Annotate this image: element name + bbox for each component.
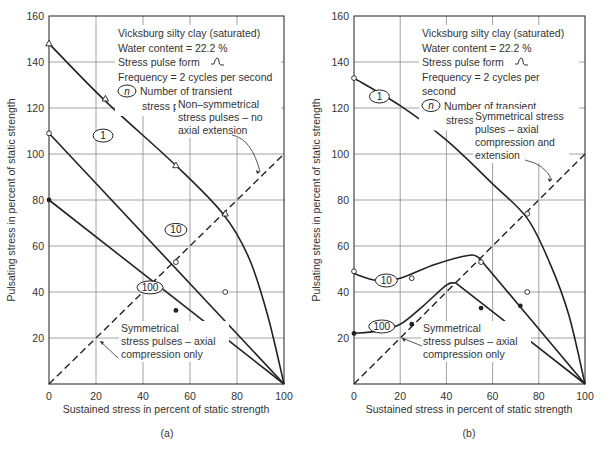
legend-note-line: Water content = 22.2 % <box>118 42 228 54</box>
x-tick-label: 100 <box>576 390 594 402</box>
chart-panel-a: 110100 02040608010020406080100120140160 … <box>5 10 293 439</box>
y-tick-label: 160 <box>331 10 349 22</box>
x-tick-label: 0 <box>351 390 357 402</box>
data-point-series-10 <box>223 290 228 295</box>
x-axis-label-b: Sustained stress in percent of static st… <box>366 403 573 415</box>
data-point-series-100 <box>352 331 357 336</box>
data-point-series-100 <box>174 308 179 313</box>
y-axis-label-a: Pulsating stress in percent of static st… <box>5 98 17 301</box>
series-label-100: 100 <box>142 282 159 293</box>
y-tick-label: 20 <box>337 332 349 344</box>
legend-note-line: second <box>422 85 456 97</box>
x-tick-label: 20 <box>394 390 406 402</box>
data-point-series-10 <box>409 276 414 281</box>
arrowhead-icon <box>402 338 406 342</box>
data-point-series-100 <box>47 198 52 203</box>
data-point-series-10 <box>47 131 52 136</box>
x-tick-label: 60 <box>184 390 196 402</box>
legend-note-line: Number of transient <box>140 85 232 97</box>
y-tick-label: 120 <box>331 102 349 114</box>
symmetric-annotation: stress pulses – axial <box>423 335 518 347</box>
legend-note-line: Frequency = 2 cycles per second <box>118 71 273 83</box>
figure: 110100 02040608010020406080100120140160 … <box>0 0 610 451</box>
data-point-series-1 <box>352 76 357 81</box>
y-tick-label: 120 <box>26 102 44 114</box>
series-label-1: 1 <box>377 91 383 102</box>
y-tick-label: 60 <box>337 240 349 252</box>
data-point-series-100 <box>518 303 523 308</box>
y-tick-label: 80 <box>32 194 44 206</box>
data-point-series-10 <box>479 260 484 265</box>
caption-a: (a) <box>161 427 174 439</box>
legend-note-line: Stress pulse form <box>422 56 504 68</box>
reference-line-annotation: Symmetrical stress <box>475 110 564 122</box>
x-tick-label: 80 <box>533 390 545 402</box>
reference-line-annotation: Non–symmetrical <box>178 98 259 110</box>
reference-line-annotation: pulses – axial <box>475 123 539 135</box>
annotation-leader-arrow <box>232 135 260 172</box>
legend-note-line: Vicksburg silty clay (saturated) <box>118 27 260 39</box>
data-point-series-10 <box>174 260 179 265</box>
series-label-100: 100 <box>373 321 390 332</box>
symmetric-annotation: Symmetrical <box>121 322 179 334</box>
y-axis-label-b: Pulsating stress in percent of static st… <box>310 98 322 301</box>
legend-symbol: n <box>124 86 130 97</box>
reference-line-annotation: extension <box>475 149 520 161</box>
reference-line-annotation: compression and <box>475 136 555 148</box>
reference-line-annotation: axial extension <box>178 124 248 136</box>
caption-b: (b) <box>463 427 476 439</box>
series-label-10: 10 <box>170 224 182 235</box>
y-tick-label: 80 <box>337 194 349 206</box>
y-tick-label: 140 <box>26 56 44 68</box>
legend-note-line: Stress pulse form <box>118 56 200 68</box>
symmetric-annotation: compression only <box>121 348 203 360</box>
symmetric-annotation: stress pulses – axial <box>121 335 216 347</box>
legend-note-line: Vicksburg silty clay (saturated) <box>422 27 564 39</box>
legend-note-line: Water content = 22.2 % <box>422 42 532 54</box>
series-label-10: 10 <box>381 275 393 286</box>
legend-note-line: Frequency = 2 cycles per <box>422 71 540 83</box>
x-tick-label: 100 <box>275 390 293 402</box>
x-tick-label: 60 <box>487 390 499 402</box>
reference-line-annotation: stress pulses – no <box>178 111 263 123</box>
x-tick-label: 40 <box>441 390 453 402</box>
x-tick-label: 0 <box>46 390 52 402</box>
data-point-series-100 <box>409 322 414 327</box>
chart-panel-b: 110100 02040608010020406080100120140160 … <box>310 10 594 439</box>
y-tick-label: 40 <box>32 286 44 298</box>
data-point-series-10 <box>352 269 357 274</box>
y-tick-label: 140 <box>331 56 349 68</box>
x-tick-label: 40 <box>137 390 149 402</box>
y-tick-label: 100 <box>26 148 44 160</box>
y-tick-label: 100 <box>331 148 349 160</box>
x-tick-label: 20 <box>90 390 102 402</box>
data-point-series-1 <box>46 40 52 46</box>
series-label-1: 1 <box>100 130 106 141</box>
y-tick-label: 60 <box>32 240 44 252</box>
x-tick-label: 80 <box>231 390 243 402</box>
data-point-series-1 <box>525 211 530 216</box>
symmetric-annotation: compression only <box>423 348 505 360</box>
legend-symbol: n <box>428 100 434 111</box>
y-tick-label: 40 <box>337 286 349 298</box>
symmetric-annotation: Symmetrical <box>423 322 481 334</box>
x-axis-label-a: Sustained stress in percent of static st… <box>63 403 270 415</box>
data-point-series-10 <box>525 290 530 295</box>
y-tick-label: 20 <box>32 332 44 344</box>
y-tick-label: 160 <box>26 10 44 22</box>
data-point-series-100 <box>479 306 484 311</box>
notes-b: Vicksburg silty clay (saturated)Water co… <box>402 25 579 362</box>
